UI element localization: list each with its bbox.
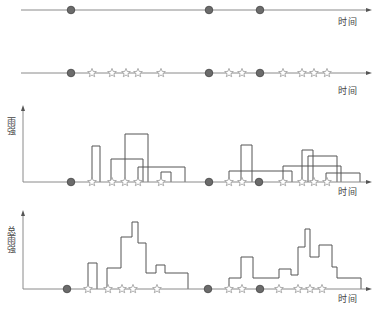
star-icon (323, 177, 332, 185)
star-icon (294, 284, 303, 292)
total-intensity-step-line (229, 229, 361, 289)
star-icon (157, 177, 166, 185)
rain-event-bar (308, 156, 337, 182)
event-circle-icon (255, 178, 263, 186)
event-circle-icon (256, 285, 264, 293)
star-icon (118, 284, 127, 292)
rain-event-bar (92, 146, 100, 182)
event-circle-icon (204, 285, 212, 293)
x-axis-label-time: 时间 (338, 87, 358, 96)
arrow-right-icon (366, 8, 372, 12)
rain-event-bar (241, 145, 252, 182)
total-intensity-step-line (88, 263, 97, 289)
star-icon (104, 284, 113, 292)
event-circle-icon (67, 6, 75, 14)
event-circle-icon (67, 178, 75, 186)
event-circle-icon (63, 285, 71, 293)
star-icon (157, 68, 166, 76)
star-icon (88, 177, 97, 185)
event-circle-icon (256, 6, 264, 14)
star-icon (122, 68, 131, 76)
event-circle-icon (256, 69, 264, 77)
star-icon (153, 284, 162, 292)
arrow-up-icon (21, 210, 25, 216)
y-axis-label-total-rain-intensity: 总雨强 (6, 226, 15, 253)
star-icon (318, 284, 327, 292)
x-axis-label-time: 时间 (338, 18, 358, 27)
star-icon (129, 284, 138, 292)
star-icon (323, 68, 332, 76)
star-icon (108, 68, 117, 76)
star-icon (298, 177, 307, 185)
star-icon (134, 68, 143, 76)
arrow-up-icon (21, 105, 25, 111)
star-icon (310, 68, 319, 76)
star-icon (238, 284, 247, 292)
total-intensity-step-line (107, 222, 188, 289)
star-icon (238, 177, 247, 185)
star-icon (225, 177, 234, 185)
star-icon (310, 177, 319, 185)
rain-event-diagram: 时间 时间 时间 时间 雨强 总雨强 (0, 0, 376, 318)
rain-event-bar (125, 134, 148, 182)
arrow-right-icon (366, 180, 372, 184)
star-icon (88, 68, 97, 76)
arrow-right-icon (366, 71, 372, 75)
star-icon (225, 68, 234, 76)
star-icon (225, 284, 234, 292)
star-icon (279, 177, 288, 185)
arrow-right-icon (366, 287, 372, 291)
x-axis-label-time: 时间 (338, 295, 358, 304)
event-circle-icon (205, 178, 213, 186)
event-circle-icon (205, 69, 213, 77)
event-circle-icon (205, 6, 213, 14)
star-icon (279, 68, 288, 76)
star-icon (298, 68, 307, 76)
star-icon (306, 284, 315, 292)
star-icon (134, 177, 143, 185)
star-icon (238, 68, 247, 76)
x-axis-label-time: 时间 (338, 188, 358, 197)
star-icon (108, 177, 117, 185)
y-axis-label-rain-intensity: 雨强 (6, 117, 15, 135)
event-circle-icon (67, 69, 75, 77)
star-icon (121, 177, 130, 185)
diagram-figure (0, 0, 376, 318)
star-icon (275, 284, 284, 292)
star-icon (84, 284, 93, 292)
